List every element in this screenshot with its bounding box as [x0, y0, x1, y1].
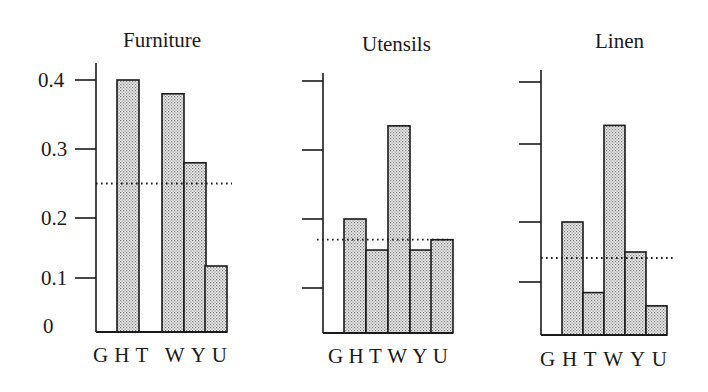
panel-title: Utensils — [362, 32, 431, 56]
y-tick-label: 0.1 — [41, 266, 67, 290]
bar-y — [184, 163, 206, 332]
bar-h — [117, 80, 139, 332]
bar-w — [388, 126, 410, 333]
bar-t — [366, 250, 388, 333]
bars — [562, 125, 667, 335]
panel-utensils: Utensils GHTWYU — [302, 32, 453, 368]
bars — [117, 80, 227, 332]
y-tick-label: 0.3 — [41, 137, 67, 161]
chart-canvas: Furniture 0.4 0.3 0.2 0.1 0 GHT WYU Uten… — [0, 0, 708, 392]
bar-h — [344, 219, 366, 333]
bar-u — [646, 306, 667, 335]
bar-y — [625, 252, 646, 335]
y-tick-label: 0 — [43, 314, 54, 338]
bar-u — [205, 266, 227, 332]
bar-u — [431, 240, 453, 333]
x-axis-labels: GHTWYU — [328, 344, 448, 368]
y-tick-label: 0.4 — [38, 68, 65, 92]
bar-w — [604, 125, 625, 335]
y-tick-labels: 0.4 0.3 0.2 0.1 0 — [38, 68, 67, 338]
chart-figure: Furniture 0.4 0.3 0.2 0.1 0 GHT WYU Uten… — [0, 0, 708, 392]
y-tick-label: 0.2 — [41, 206, 67, 230]
x-axis-labels: GHTWYU — [540, 347, 667, 371]
panel-linen: Linen GHTWYU — [519, 29, 675, 371]
bar-y — [410, 250, 432, 333]
panel-title: Linen — [595, 29, 644, 53]
bars — [344, 126, 453, 333]
panel-furniture: Furniture 0.4 0.3 0.2 0.1 0 GHT WYU — [38, 28, 232, 367]
panel-title: Furniture — [123, 28, 201, 52]
bar-t — [583, 293, 604, 335]
bar-h — [562, 222, 583, 335]
x-axis-labels: GHT WYU — [93, 343, 227, 367]
bar-w — [162, 94, 184, 332]
